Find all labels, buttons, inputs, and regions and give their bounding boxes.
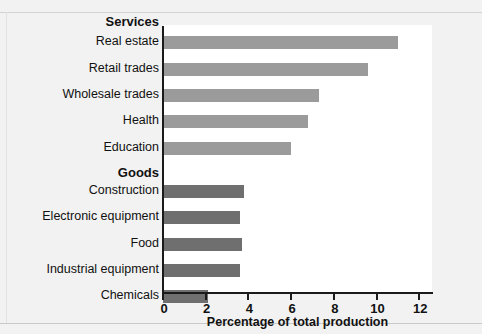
x-tick-label-0: 0 xyxy=(144,301,184,316)
x-tick-10 xyxy=(376,294,378,300)
category-label-health: Health xyxy=(7,113,159,127)
figure-footnote xyxy=(288,326,482,334)
x-tick-label-10: 10 xyxy=(358,301,398,316)
category-label-industrial-equipment: Industrial equipment xyxy=(7,262,159,276)
category-label-chemicals: Chemicals xyxy=(7,288,159,302)
bar-real-estate xyxy=(163,36,398,49)
bar-chart-figure: ServicesReal estateRetail tradesWholesal… xyxy=(0,0,482,334)
x-tick-2 xyxy=(205,294,207,300)
category-label-wholesale-trades: Wholesale trades xyxy=(7,87,159,101)
bar-industrial-equipment xyxy=(163,264,240,277)
x-tick-label-8: 8 xyxy=(315,301,355,316)
y-axis-line xyxy=(162,26,164,294)
category-label-column: ServicesReal estateRetail tradesWholesal… xyxy=(4,0,159,334)
x-tick-label-12: 12 xyxy=(400,301,440,316)
bar-education xyxy=(163,142,291,155)
x-tick-12 xyxy=(418,294,420,300)
category-label-real-estate: Real estate xyxy=(7,34,159,48)
bar-health xyxy=(163,115,308,128)
category-label-education: Education xyxy=(7,140,159,154)
group-label-services: Services xyxy=(7,14,159,29)
x-tick-label-2: 2 xyxy=(187,301,227,316)
bar-construction xyxy=(163,185,244,198)
bar-retail-trades xyxy=(163,63,368,76)
category-label-electronic-equipment: Electronic equipment xyxy=(7,209,159,223)
group-label-goods: Goods xyxy=(7,165,159,180)
x-tick-label-6: 6 xyxy=(272,301,312,316)
category-label-construction: Construction xyxy=(7,183,159,197)
category-label-retail-trades: Retail trades xyxy=(7,61,159,75)
bar-electronic-equipment xyxy=(163,211,240,224)
x-tick-4 xyxy=(247,294,249,300)
x-axis-line xyxy=(162,292,433,294)
x-tick-0 xyxy=(162,294,164,300)
bar-food xyxy=(163,238,242,251)
x-tick-6 xyxy=(290,294,292,300)
bar-wholesale-trades xyxy=(163,89,319,102)
category-label-food: Food xyxy=(7,236,159,250)
x-tick-label-4: 4 xyxy=(229,301,269,316)
x-tick-8 xyxy=(333,294,335,300)
